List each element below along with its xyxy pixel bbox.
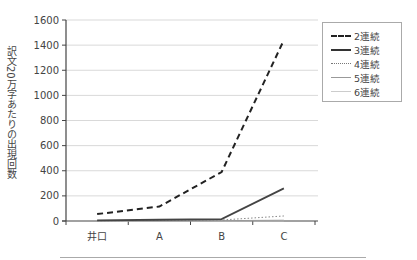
x-category-label: A	[156, 231, 163, 242]
solid-line-swatch-icon	[331, 91, 351, 92]
y-tick-label: 1600	[34, 15, 59, 26]
legend-label: 5連続	[354, 71, 380, 85]
y-axis-title: 訳文20万字あたりの出現回数	[2, 46, 16, 179]
series-line	[97, 188, 284, 220]
y-tick-label: 400	[40, 165, 59, 176]
legend: 2連続 3連続 4連続 5連続 6連続	[322, 22, 402, 102]
dashed-line-swatch-icon	[331, 35, 351, 37]
x-category-label: B	[218, 231, 225, 242]
legend-item-3: 3連続	[331, 43, 380, 56]
y-axis: 02004006008001000120014001600	[34, 15, 66, 227]
x-category-label: 井口	[87, 230, 107, 242]
y-tick-label: 200	[40, 190, 59, 201]
solid-line-swatch-icon	[331, 49, 351, 51]
solid-line-swatch-icon	[331, 77, 351, 78]
bottom-divider	[60, 257, 366, 258]
legend-item-6: 6連続	[331, 85, 380, 98]
legend-item-2: 2連続	[331, 29, 380, 42]
legend-label: 3連続	[354, 43, 380, 57]
y-tick-label: 1400	[34, 40, 59, 51]
legend-label: 2連続	[354, 29, 380, 43]
dotted-line-swatch-icon	[331, 63, 351, 64]
x-category-label: C	[280, 231, 287, 242]
x-axis: 井口ABC	[62, 221, 318, 242]
series-lines	[97, 40, 284, 221]
y-tick-label: 0	[53, 216, 59, 227]
legend-item-4: 4連続	[331, 57, 380, 70]
y-tick-label: 800	[40, 115, 59, 126]
y-tick-label: 1200	[34, 65, 59, 76]
series-line	[97, 40, 284, 214]
y-tick-label: 1000	[34, 90, 59, 101]
legend-item-5: 5連続	[331, 71, 380, 84]
legend-label: 4連続	[354, 57, 380, 71]
y-tick-label: 600	[40, 140, 59, 151]
legend-label: 6連続	[354, 85, 380, 99]
